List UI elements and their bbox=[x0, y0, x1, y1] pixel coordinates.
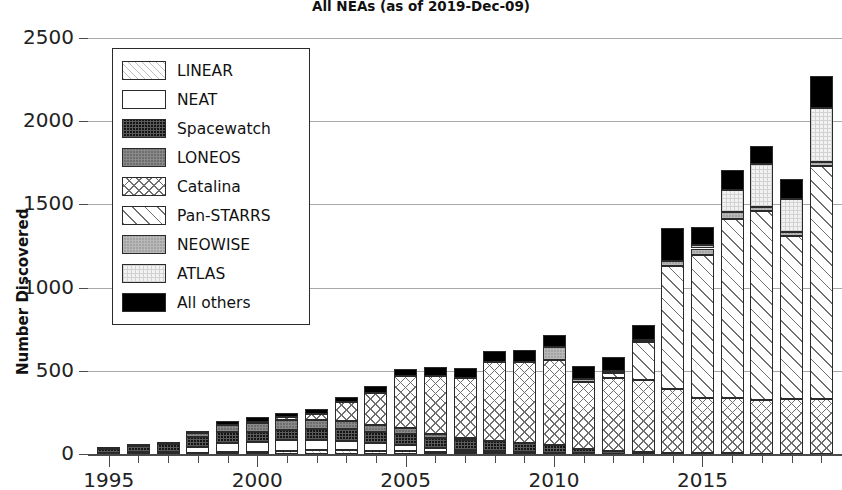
bar-segment-neat bbox=[394, 445, 417, 451]
bar-segment-spacewatch bbox=[364, 432, 387, 442]
bar-segment-catalina bbox=[394, 376, 417, 428]
bar-2012 bbox=[602, 357, 625, 454]
bar-segment-neowise bbox=[750, 207, 773, 210]
bar-segment-all-others bbox=[454, 368, 477, 378]
bar-segment-catalina bbox=[572, 382, 595, 449]
bar-segment-all-others bbox=[750, 146, 773, 164]
bar-segment-atlas bbox=[780, 199, 803, 232]
bar-segment-catalina bbox=[424, 376, 447, 434]
bar-segment-loneos bbox=[246, 423, 269, 432]
legend-item-neat[interactable]: NEAT bbox=[122, 85, 299, 114]
bar-segment-pan-starrs bbox=[721, 219, 744, 399]
y-tick-mark bbox=[79, 38, 88, 39]
legend-item-neowise[interactable]: NEOWISE bbox=[122, 230, 299, 259]
bar-segment-all-others bbox=[157, 442, 180, 444]
bar-segment-neowise bbox=[572, 379, 595, 382]
bar-2016 bbox=[721, 170, 744, 454]
x-tick-mark bbox=[762, 456, 763, 463]
bar-segment-spacewatch bbox=[305, 429, 328, 440]
x-tick-label: 2010 bbox=[504, 468, 604, 490]
x-tick-mark bbox=[376, 456, 377, 463]
x-tick-mark bbox=[198, 456, 199, 463]
y-tick-label: 2500 bbox=[0, 25, 74, 49]
x-tick-mark bbox=[317, 456, 318, 463]
bar-segment-pan-starrs bbox=[632, 342, 655, 380]
legend-swatch-icon bbox=[122, 119, 166, 138]
bar-segment-neat bbox=[246, 442, 269, 452]
x-tick-mark bbox=[673, 456, 674, 463]
bar-2010 bbox=[543, 335, 566, 454]
legend-item-loneos[interactable]: LONEOS bbox=[122, 143, 299, 172]
bar-segment-loneos bbox=[275, 420, 298, 429]
bar-segment-loneos bbox=[364, 425, 387, 433]
bar-segment-spacewatch bbox=[424, 438, 447, 448]
bar-2001 bbox=[275, 413, 298, 454]
bar-2003 bbox=[335, 397, 358, 454]
bar-segment-neat bbox=[424, 448, 447, 452]
bar-segment-all-others bbox=[335, 397, 358, 403]
bar-1997 bbox=[157, 443, 180, 454]
bar-segment-all-others bbox=[602, 357, 625, 372]
bar-segment-neat bbox=[186, 447, 209, 453]
x-tick-mark bbox=[584, 456, 585, 463]
x-tick-mark bbox=[821, 456, 822, 463]
y-tick-label: 1500 bbox=[0, 191, 74, 215]
legend-label: NEAT bbox=[177, 91, 217, 109]
legend-swatch-icon bbox=[122, 148, 166, 167]
x-tick-mark bbox=[554, 456, 555, 467]
x-tick-mark bbox=[138, 456, 139, 463]
bar-segment-spacewatch bbox=[246, 432, 269, 442]
bar-segment-spacewatch bbox=[513, 443, 536, 452]
bar-segment-catalina bbox=[632, 380, 655, 452]
bar-segment-catalina bbox=[305, 414, 328, 419]
x-tick-mark bbox=[228, 456, 229, 463]
bar-segment-all-others bbox=[810, 76, 833, 108]
legend-item-spacewatch[interactable]: Spacewatch bbox=[122, 114, 299, 143]
bar-segment-neowise bbox=[661, 261, 684, 266]
bar-1999 bbox=[216, 421, 239, 454]
bar-2009 bbox=[513, 350, 536, 454]
bar-2006 bbox=[424, 367, 447, 454]
legend-item-atlas[interactable]: ATLAS bbox=[122, 259, 299, 288]
x-tick-label: 2015 bbox=[652, 468, 752, 490]
bar-2018 bbox=[780, 179, 803, 454]
bar-segment-all-others bbox=[572, 366, 595, 379]
bar-segment-catalina bbox=[275, 417, 298, 420]
bar-segment-atlas bbox=[750, 164, 773, 207]
bar-segment-all-others bbox=[661, 228, 684, 261]
bar-segment-atlas bbox=[810, 108, 833, 163]
bar-segment-pan-starrs bbox=[780, 236, 803, 399]
bar-segment-all-others bbox=[127, 444, 150, 446]
x-tick-mark bbox=[346, 456, 347, 463]
y-tick-mark bbox=[79, 454, 88, 455]
gridline bbox=[88, 38, 842, 39]
bar-segment-catalina bbox=[750, 400, 773, 453]
bar-segment-all-others bbox=[97, 447, 120, 449]
bar-2014 bbox=[661, 228, 684, 454]
bar-segment-spacewatch bbox=[483, 441, 506, 451]
legend-item-linear[interactable]: LINEAR bbox=[122, 56, 299, 85]
bar-2019 bbox=[810, 76, 833, 454]
x-tick-mark bbox=[792, 456, 793, 463]
bar-segment-catalina bbox=[721, 398, 744, 453]
bar-segment-all-others bbox=[691, 227, 714, 245]
bar-segment-all-others bbox=[216, 421, 239, 425]
legend-item-catalina[interactable]: Catalina bbox=[122, 172, 299, 201]
bar-segment-catalina bbox=[513, 362, 536, 444]
legend-swatch-icon bbox=[122, 177, 166, 196]
bar-1996 bbox=[127, 445, 150, 454]
x-tick-mark bbox=[643, 456, 644, 463]
y-tick-mark bbox=[79, 204, 88, 205]
legend-item-all-others[interactable]: All others bbox=[122, 288, 299, 317]
y-tick-label: 0 bbox=[0, 441, 74, 465]
bar-segment-atlas bbox=[691, 245, 714, 248]
bar-segment-neat bbox=[305, 440, 328, 450]
legend-swatch-icon bbox=[122, 90, 166, 109]
bar-segment-catalina bbox=[810, 399, 833, 454]
bar-segment-spacewatch bbox=[186, 437, 209, 447]
bar-segment-spacewatch bbox=[454, 440, 477, 450]
bar-segment-pan-starrs bbox=[750, 211, 773, 401]
legend-item-pan-starrs[interactable]: Pan-STARRS bbox=[122, 201, 299, 230]
bar-segment-loneos bbox=[454, 438, 477, 440]
x-tick-mark bbox=[524, 456, 525, 463]
